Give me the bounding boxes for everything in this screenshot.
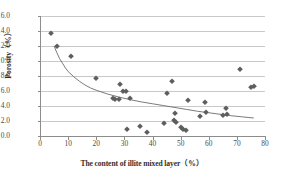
x-tick-label: 60 [205,140,212,147]
x-tick-label: 20 [93,140,100,147]
data-point [224,111,229,116]
data-point [123,88,128,93]
y-tick [38,46,41,47]
data-points-layer [40,16,265,136]
x-tick-label: 30 [121,140,128,147]
data-point [198,114,203,119]
x-axis-title: The content of illite mixed layer（%） [0,157,284,168]
data-point [94,76,99,81]
porosity-vs-illite-scatter-chart: 0.02.04.06.08.010.012.014.016.0 01020304… [0,0,284,175]
y-tick [38,106,41,107]
data-point [164,91,169,96]
data-point [173,119,178,124]
x-tick-label: 40 [149,140,156,147]
y-tick [38,16,41,17]
x-tick-label: 80 [261,140,268,147]
y-axis-title: Porosity（%） [2,9,13,99]
y-tick [38,61,41,62]
x-tick-label: 0 [38,140,42,147]
data-point [237,67,242,72]
y-tick [38,31,41,32]
data-point [144,129,149,134]
data-point [49,30,54,35]
data-point [161,121,166,126]
data-point [54,43,59,48]
x-tick-label: 10 [64,140,71,147]
plot-area [40,16,265,136]
data-point [137,123,142,128]
x-tick-label: 50 [177,140,184,147]
data-point [125,126,130,131]
data-point [185,97,190,102]
data-point [68,53,73,58]
data-point [116,96,121,101]
y-tick [38,76,41,77]
data-point [202,100,207,105]
data-point [118,81,123,86]
data-point [170,78,175,83]
x-tick-label: 70 [233,140,240,147]
y-tick [38,91,41,92]
data-point [203,109,208,114]
data-point [127,95,132,100]
y-tick [38,121,41,122]
data-point [172,110,177,115]
data-point [184,127,189,132]
data-point [223,106,228,111]
